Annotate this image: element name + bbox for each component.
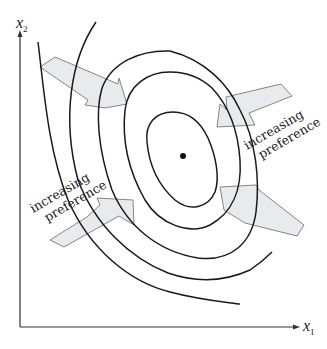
y-axis-label: x2 xyxy=(15,14,28,34)
y-axis-arrowhead-icon xyxy=(18,30,23,37)
bliss-point xyxy=(180,153,186,159)
x-axis-label: x1 xyxy=(302,317,315,337)
arrow-top-left xyxy=(40,57,127,108)
indifference-curve-diagram: x2 x1 increasing preference increasing p… xyxy=(0,0,327,349)
contour-3 xyxy=(98,51,257,259)
contour-1 xyxy=(147,112,217,207)
y-axis-subscript: 2 xyxy=(23,24,28,34)
x-axis-arrowhead-icon xyxy=(293,325,300,330)
arrow-bottom-right xyxy=(220,185,304,236)
contour-4 xyxy=(70,22,272,280)
x-axis-subscript: 1 xyxy=(310,327,315,337)
